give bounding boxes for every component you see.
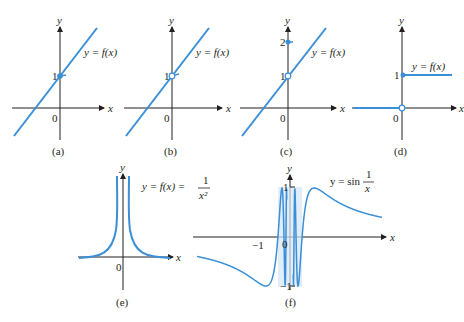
x-axis-label: x: [107, 102, 113, 114]
svg-text:x: x: [225, 102, 231, 114]
svg-text:1: 1: [164, 70, 170, 82]
svg-text:y: y: [119, 161, 125, 173]
panel-d: y x 1 0 y = f(x) (d): [352, 14, 464, 158]
svg-text:0: 0: [393, 112, 399, 124]
panel-c: y x 1 2 0 y = f(x) (c): [240, 14, 345, 158]
y-axis-label: y: [56, 14, 62, 26]
svg-text:0: 0: [52, 112, 58, 124]
function-label: y = f(x): [311, 46, 345, 59]
function-label: y = f(x): [195, 46, 229, 59]
svg-text:x: x: [389, 231, 395, 243]
svg-text:1: 1: [394, 69, 400, 81]
function-label: y = f(x): [83, 46, 117, 59]
panel-a: y x 1 0 y = f(x) (a): [12, 14, 117, 158]
svg-text:1: 1: [203, 174, 209, 186]
panel-e: y x 0 y = f(x) = 1 x² (e): [78, 161, 210, 309]
caption-e: (e): [116, 296, 129, 309]
svg-text:y: y: [284, 14, 290, 26]
svg-text:1: 1: [52, 70, 58, 82]
svg-text:y: y: [168, 14, 174, 26]
figure-canvas: y x 1 0 y = f(x) (a) y x 1 0 y = f(x) (b…: [0, 0, 464, 322]
svg-text:1: 1: [280, 70, 286, 82]
svg-text:−1: −1: [252, 239, 264, 251]
caption-b: (b): [164, 145, 177, 158]
svg-text:1: 1: [283, 181, 289, 193]
caption-f: (f): [285, 296, 296, 309]
panel-b: y x 1 0 y = f(x) (b): [124, 14, 231, 158]
svg-text:x: x: [175, 251, 181, 263]
svg-text:0: 0: [164, 112, 170, 124]
function-label: y = sin: [330, 175, 361, 187]
svg-text:1: 1: [366, 168, 372, 180]
function-label: y = f(x): [411, 60, 445, 73]
caption-d: (d): [394, 145, 407, 158]
svg-text:x²: x²: [198, 189, 208, 201]
svg-text:0: 0: [282, 238, 288, 250]
svg-text:y: y: [398, 14, 404, 26]
svg-text:−1: −1: [280, 280, 292, 292]
svg-text:x: x: [458, 102, 464, 114]
panel-f: y x 1 −1 −1 0 y = sin 1 x (f): [193, 162, 395, 309]
svg-text:2: 2: [280, 36, 286, 48]
svg-text:x: x: [364, 182, 370, 194]
svg-text:0: 0: [280, 112, 286, 124]
svg-text:x: x: [339, 102, 345, 114]
function-label: y = f(x) =: [141, 180, 185, 193]
svg-text:y: y: [286, 162, 292, 174]
svg-text:0: 0: [116, 261, 122, 273]
caption-c: (c): [280, 145, 293, 158]
caption-a: (a): [52, 145, 65, 158]
